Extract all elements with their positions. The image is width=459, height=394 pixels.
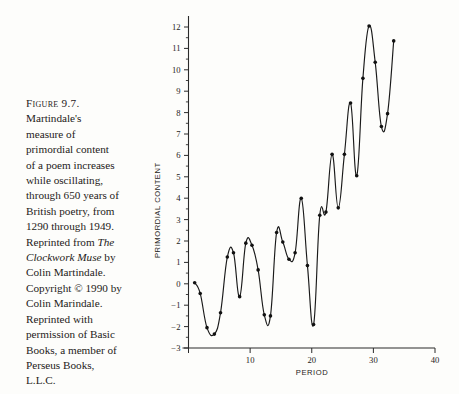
data-point: [380, 125, 384, 129]
y-tick-label: 3: [176, 215, 180, 225]
data-point: [324, 210, 328, 214]
data-point: [392, 39, 396, 43]
data-point: [299, 196, 303, 200]
data-point: [330, 153, 334, 157]
data-point: [269, 314, 273, 318]
data-point: [373, 61, 377, 65]
chart-svg: −3−2−10123456789101112 10203040 PRIMORDI…: [0, 0, 459, 394]
y-tick-label: 6: [176, 150, 181, 160]
y-tick-label: 5: [176, 172, 180, 182]
data-point: [198, 292, 202, 296]
chart-plot-area: −3−2−10123456789101112 10203040 PRIMORDI…: [0, 0, 459, 394]
x-axis-title: PERIOD: [296, 368, 328, 377]
y-tick-label: 7: [176, 129, 181, 139]
y-axis-title: PRIMORDIAL CONTENT: [153, 162, 162, 258]
data-point: [336, 206, 340, 210]
data-point: [386, 112, 390, 116]
x-tick-label: 20: [307, 355, 316, 365]
data-point: [193, 281, 197, 285]
y-tick-label: 2: [176, 236, 180, 246]
data-point: [275, 231, 279, 235]
data-point: [250, 243, 254, 247]
data-point: [213, 332, 217, 336]
y-tick-label: 11: [172, 43, 180, 53]
data-point: [349, 101, 353, 105]
data-point: [367, 24, 371, 28]
y-tick-label: 4: [176, 193, 181, 203]
data-point: [263, 313, 267, 317]
figure-page: Figure 9.7.Martindale'smeasure ofprimord…: [0, 0, 459, 394]
data-point: [226, 255, 230, 259]
data-point: [318, 214, 322, 218]
y-tick-label: 0: [176, 279, 180, 289]
data-point: [244, 241, 248, 245]
data-point: [355, 174, 359, 178]
y-tick-label: −2: [171, 322, 180, 332]
data-point: [281, 240, 285, 244]
data-point: [293, 251, 297, 255]
y-tick-label: 8: [176, 108, 180, 118]
x-tick-label: 10: [246, 355, 255, 365]
data-point: [219, 311, 223, 315]
data-curve: [195, 26, 394, 336]
y-tick-label: −1: [171, 300, 180, 310]
x-axis-ticks: 10203040: [189, 348, 440, 365]
y-tick-label: 1: [176, 257, 180, 267]
y-tick-label: −3: [171, 343, 180, 353]
data-point: [238, 295, 242, 299]
data-point: [256, 268, 260, 272]
y-tick-label: 10: [172, 65, 181, 75]
data-point: [232, 251, 236, 255]
x-tick-label: 40: [431, 355, 440, 365]
y-tick-label: 12: [172, 22, 181, 32]
y-tick-label: 9: [176, 86, 180, 96]
data-point: [306, 264, 310, 268]
y-axis-ticks: −3−2−10123456789101112: [171, 22, 188, 353]
data-point: [287, 257, 291, 261]
data-point: [312, 323, 316, 327]
data-point: [361, 77, 365, 81]
x-tick-label: 30: [369, 355, 378, 365]
data-point: [343, 153, 347, 157]
data-point: [205, 326, 209, 330]
